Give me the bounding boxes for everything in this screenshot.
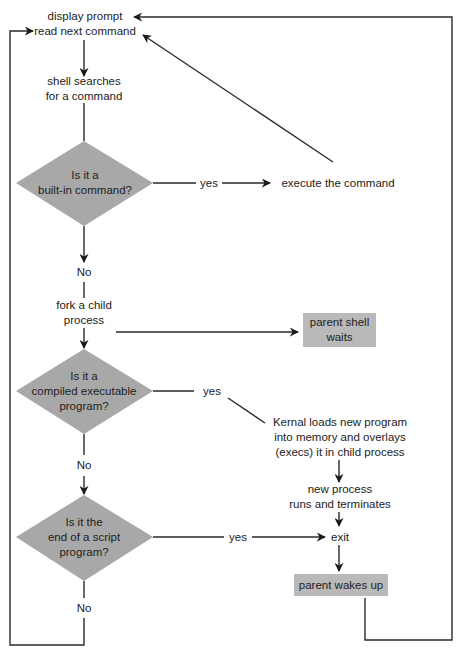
search-node: shell searches for a command [46,74,123,104]
kernel-line3: (execs) it in child process [273,445,407,460]
edge-label-compiled-yes: yes [200,384,224,398]
execute-node: execute the command [281,176,394,191]
decision-script-line2: end of a script [48,530,120,545]
new-process-line1: new process [289,482,391,497]
decision-script-line1: Is it the [48,515,120,530]
loop-parent-wakes-to-display [134,17,452,640]
fork-line1: fork a child [56,298,112,313]
parent-wakes-label: parent wakes up [299,578,383,593]
decision-compiled-line1: Is it a [32,369,137,384]
kernel-line2: into memory and overlays [273,430,407,445]
parent-waits-box: parent shell waits [303,313,376,347]
decision-compiled-text: Is it a compiled executable program? [32,369,137,414]
decision-builtin-line2: built-in command? [38,183,132,198]
parent-waits-line2: waits [310,330,369,345]
start-line1: display prompt [34,9,136,24]
decision-script-line3: program? [48,545,120,560]
kernel-line1: Kernal loads new program [273,415,407,430]
decision-compiled-line2: compiled executable [32,384,137,399]
fork-node: fork a child process [56,298,112,328]
line-compiled-yes-diag [228,398,265,423]
decision-script-text: Is it the end of a script program? [48,515,120,560]
edge-label-compiled-no: No [77,458,92,473]
search-line1: shell searches [46,74,123,89]
parent-wakes-box: parent wakes up [294,574,388,596]
search-line2: for a command [46,89,123,104]
fork-line2: process [56,313,112,328]
new-process-node: new process runs and terminates [289,482,391,512]
new-process-line2: runs and terminates [289,497,391,512]
arrow-execute-to-read [143,35,333,162]
edge-label-builtin-yes: yes [197,176,221,190]
parent-waits-line1: parent shell [310,315,369,330]
edge-label-script-no: No [77,601,92,616]
edge-label-builtin-no: No [77,265,92,280]
decision-builtin-line1: Is it a [38,168,132,183]
decision-builtin-text: Is it a built-in command? [38,168,132,198]
start-line2: read next command [34,24,136,39]
start-node: display prompt read next command [34,9,136,39]
kernel-loads-node: Kernal loads new program into memory and… [273,415,407,460]
edge-label-script-yes: yes [226,530,250,544]
exit-node: exit [331,530,349,545]
decision-compiled-line3: program? [32,399,137,414]
